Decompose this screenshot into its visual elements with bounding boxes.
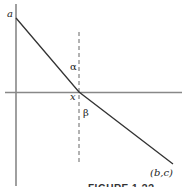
label-x: x [70, 91, 76, 102]
label-beta: β [83, 107, 89, 118]
figure-caption: FIGURE 1.?? [88, 183, 155, 187]
label-alpha: α [70, 61, 77, 72]
geometry-diagram: a x α β (b,c) FIGURE 1.?? [0, 0, 182, 187]
curve-line [16, 18, 173, 164]
label-endpoint-bc: (b,c) [150, 167, 173, 178]
label-a: a [7, 8, 13, 19]
